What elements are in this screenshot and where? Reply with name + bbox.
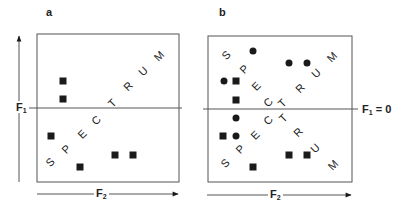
panel-a-plot: SPECTRUM [26,34,182,182]
panel-b-center-line-label: F1 = 0 [362,104,391,116]
spectrum-letter: M [326,158,341,173]
spectrum-letter: M [152,49,167,64]
spectrum-letter: R [291,125,305,139]
panel-b-label: b [219,6,226,18]
square-marker [250,164,257,171]
spectrum-letter: E [249,79,263,93]
circle-marker [221,78,228,85]
figure-canvas: SPECTRUM SPECTRUMSPECTRUM [0,0,402,213]
spectrum-letter: P [237,62,251,76]
panel-b-x-axis-label: F2 [268,189,283,201]
circle-marker [304,60,311,67]
panel-a-x-axis-label: F2 [94,188,109,200]
spectrum-letter: P [233,142,247,156]
square-marker [130,152,137,159]
spectrum-letter: U [309,66,323,80]
panel-b-plot: SPECTRUMSPECTRUM [203,36,358,182]
spectrum-letter: S [43,155,57,169]
spectrum-letter: T [276,111,289,124]
circle-marker [233,133,240,140]
spectrum-letter: E [75,127,89,141]
spectrum-letter: C [261,113,275,127]
circle-marker [233,115,240,122]
circle-marker [286,60,293,67]
spectrum-letter: U [136,64,150,78]
spectrum-letter: C [89,113,103,127]
spectrum-letter: C [261,95,275,109]
square-marker [304,152,311,159]
panel-a-label: a [46,6,52,18]
square-marker [220,133,227,140]
spectrum-letter: T [275,96,288,109]
spectrum-figure: SPECTRUM SPECTRUMSPECTRUM a b F1 F2 F2 F… [0,0,402,213]
square-marker [286,152,293,159]
spectrum-letter: R [121,79,135,93]
square-marker [233,78,240,85]
panel-a-y-axis-label: F1 [14,102,29,114]
square-marker [77,164,84,171]
square-marker [48,133,55,140]
square-marker [60,78,67,85]
circle-marker [250,48,257,55]
square-marker [60,96,67,103]
spectrum-letter: M [325,50,340,65]
spectrum-letter: S [219,48,233,62]
square-marker [112,152,119,159]
spectrum-letter: E [248,128,262,142]
spectrum-letter: R [293,81,307,95]
spectrum-letter: P [59,142,73,156]
square-marker [233,97,240,104]
spectrum-letter: S [218,156,232,170]
